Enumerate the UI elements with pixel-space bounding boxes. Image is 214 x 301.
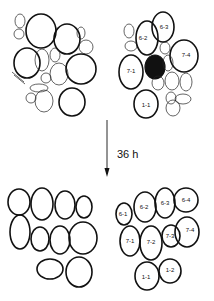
cell-label: 6-2 [139,35,148,41]
cell-label: 6-3 [160,24,169,30]
cell-label: 6-4 [182,197,191,203]
time-label: 36 h [117,148,138,160]
cell-label: 7-4 [186,227,195,233]
cell-label: 7-1 [127,68,136,74]
cell-label: 7-1 [126,238,135,244]
cell-label: 6-1 [119,211,128,217]
cell-label: 7-3 [166,233,175,239]
cell-diagram: 6-3 6-2 7-4 7-1 1-1 36 h 6-1 6-2 [0,0,214,301]
bottom-right-cell-cluster: 6-1 6-2 6-3 6-4 7-1 7-2 7-3 7-4 1-1 1-2 [116,188,199,290]
cell-label: 7-2 [147,239,156,245]
bottom-left-cell-cluster [8,188,97,287]
cell-label: 1-1 [142,102,151,108]
cell-label: 1-2 [166,267,175,273]
time-arrow [105,120,110,177]
cell-label: 6-2 [140,204,149,210]
cell-label: 6-3 [161,200,170,206]
top-left-cell-cluster [12,14,96,116]
top-right-cell-cluster: 6-3 6-2 7-4 7-1 1-1 [119,12,198,118]
cell-label: 7-4 [182,52,191,58]
cell-label: 1-1 [142,274,151,280]
